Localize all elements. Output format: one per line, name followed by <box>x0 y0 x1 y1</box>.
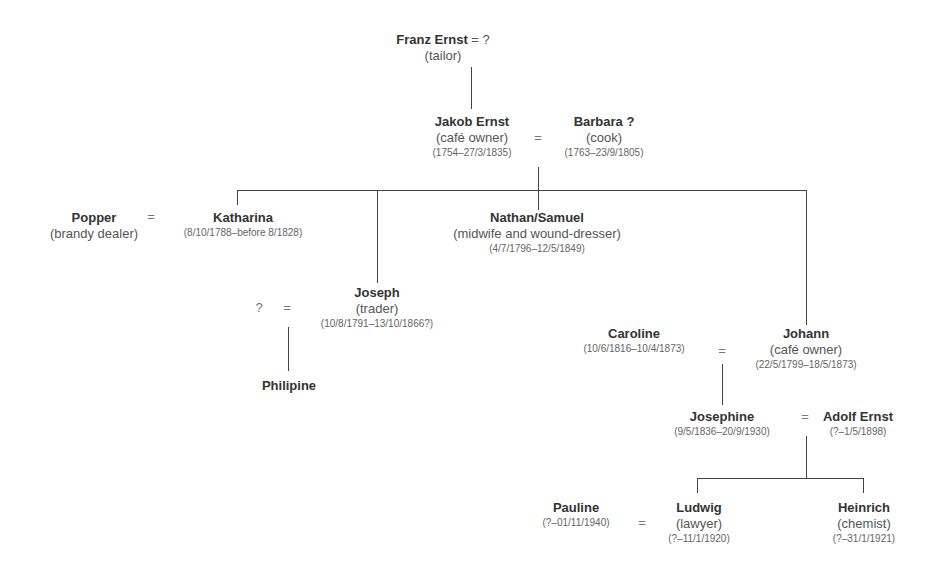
person-dates: (4/7/1796–12/5/1849) <box>453 242 621 256</box>
marriage-symbol: = <box>534 130 542 145</box>
descent-line <box>538 167 539 210</box>
marriage-symbol: = <box>718 343 726 358</box>
descent-line <box>863 478 864 493</box>
person-pauline: Pauline (?–01/11/1940) <box>542 500 609 530</box>
descent-line <box>722 364 723 405</box>
person-name: Barbara ? <box>565 114 644 130</box>
person-occupation: (trader) <box>321 301 433 317</box>
person-name: Caroline <box>583 326 684 342</box>
marriage-symbol: = <box>638 515 646 530</box>
person-name: Johann <box>755 326 856 342</box>
descent-line <box>288 327 289 371</box>
person-ludwig: Ludwig (lawyer) (?–11/1/1920) <box>668 500 730 546</box>
person-philipine: Philipine <box>262 378 316 394</box>
person-johann: Johann (café owner) (22/5/1799–18/5/1873… <box>755 326 856 372</box>
person-popper: Popper (brandy dealer) <box>50 210 138 242</box>
spouse-unknown: = ? <box>468 32 490 47</box>
unknown-spouse: ? <box>255 300 262 315</box>
person-katharina: Katharina (8/10/1788–before 8/1828) <box>184 210 302 240</box>
descent-line <box>377 190 378 283</box>
person-name: Ludwig <box>668 500 730 516</box>
person-occupation: (lawyer) <box>668 516 730 532</box>
person-name: Heinrich <box>833 500 895 516</box>
person-name: Popper <box>50 210 138 226</box>
person-joseph: Joseph (trader) (10/8/1791–13/10/1866?) <box>321 285 433 331</box>
person-name: Pauline <box>542 500 609 516</box>
descent-line <box>237 190 238 205</box>
person-dates: (?–01/11/1940) <box>542 516 609 530</box>
descent-line <box>471 67 472 109</box>
person-dates: (?–31/1/1921) <box>833 532 895 546</box>
person-dates: (1754–27/3/1835) <box>433 146 512 160</box>
person-jakob-ernst: Jakob Ernst (café owner) (1754–27/3/1835… <box>433 114 512 160</box>
person-nathan-samuel: Nathan/Samuel (midwife and wound-dresser… <box>453 210 621 256</box>
person-name: Jakob Ernst <box>433 114 512 130</box>
person-occupation: (brandy dealer) <box>50 226 138 242</box>
person-dates: (22/5/1799–18/5/1873) <box>755 358 856 372</box>
person-dates: (1763–23/9/1805) <box>565 146 644 160</box>
person-occupation: (tailor) <box>396 48 490 64</box>
person-dates: (?–1/5/1898) <box>823 425 893 439</box>
person-occupation: (café owner) <box>755 342 856 358</box>
person-occupation: (chemist) <box>833 516 895 532</box>
person-heinrich: Heinrich (chemist) (?–31/1/1921) <box>833 500 895 546</box>
person-dates: (10/6/1816–10/4/1873) <box>583 342 684 356</box>
marriage-symbol: = <box>801 409 809 424</box>
person-name: Franz Ernst <box>396 32 468 47</box>
person-name: Josephine <box>674 409 770 425</box>
person-dates: (?–11/1/1920) <box>668 532 730 546</box>
person-dates: (8/10/1788–before 8/1828) <box>184 226 302 240</box>
person-name: Adolf Ernst <box>823 409 893 425</box>
person-barbara: Barbara ? (cook) (1763–23/9/1805) <box>565 114 644 160</box>
descent-line <box>806 436 807 478</box>
person-name: Nathan/Samuel <box>453 210 621 226</box>
person-occupation: (midwife and wound-dresser) <box>453 226 621 242</box>
marriage-symbol: = <box>147 209 155 224</box>
person-name: Philipine <box>262 378 316 394</box>
person-franz-ernst: Franz Ernst = ? (tailor) <box>396 30 490 64</box>
person-name: Joseph <box>321 285 433 301</box>
person-adolf-ernst: Adolf Ernst (?–1/5/1898) <box>823 409 893 439</box>
person-dates: (9/5/1836–20/9/1930) <box>674 425 770 439</box>
person-name: Katharina <box>184 210 302 226</box>
descent-line <box>697 478 698 493</box>
descent-line <box>806 190 807 325</box>
person-dates: (10/8/1791–13/10/1866?) <box>321 317 433 331</box>
person-caroline: Caroline (10/6/1816–10/4/1873) <box>583 326 684 356</box>
person-occupation: (café owner) <box>433 130 512 146</box>
person-occupation: (cook) <box>565 130 644 146</box>
sibling-bar <box>697 478 863 479</box>
person-josephine: Josephine (9/5/1836–20/9/1930) <box>674 409 770 439</box>
sibling-bar <box>237 190 806 191</box>
marriage-symbol: = <box>283 300 291 315</box>
